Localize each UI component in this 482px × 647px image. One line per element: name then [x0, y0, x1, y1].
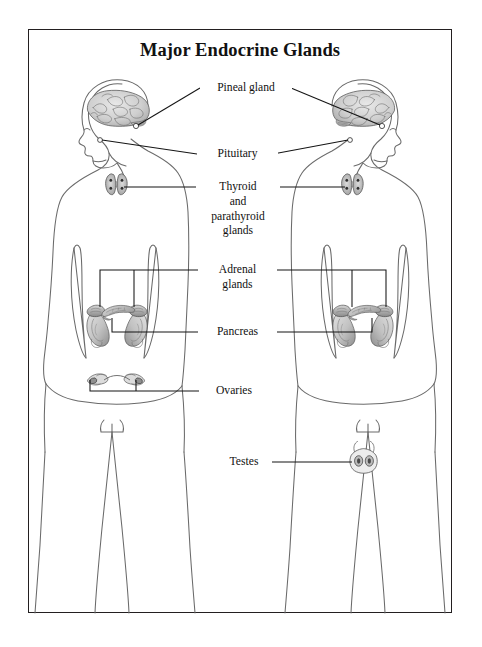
brain-right — [333, 90, 395, 126]
diagram-page: Major Endocrine Glands Pineal gland Pitu… — [0, 0, 482, 647]
leader-pancreas-right — [272, 318, 372, 332]
anatomy-illustration — [0, 0, 482, 647]
pituitary-dot-right — [348, 138, 353, 143]
label-pancreas: Pancreas — [198, 325, 277, 340]
label-adrenal-glands: Adrenal glands — [198, 263, 277, 293]
male-body-outline — [285, 84, 445, 613]
brain-left — [87, 90, 149, 126]
testes — [350, 441, 377, 473]
leader-adrenal-left — [100, 270, 198, 307]
ovary-right — [124, 374, 144, 385]
thyroid-right — [342, 174, 364, 195]
label-ovaries: Ovaries — [200, 384, 268, 399]
label-pineal-gland: Pineal gland — [200, 81, 292, 96]
page-title: Major Endocrine Glands — [28, 40, 452, 61]
leader-pituitary-right — [273, 140, 348, 154]
label-testes: Testes — [216, 455, 272, 470]
leader-adrenal-right — [272, 270, 386, 307]
pituitary-dot-left — [98, 138, 103, 143]
label-pituitary: Pituitary — [197, 147, 278, 162]
pineal-dot-left — [133, 123, 138, 128]
female-body-outline — [35, 84, 195, 613]
pineal-dot-right — [379, 123, 384, 128]
thyroid-left — [106, 174, 128, 195]
label-thyroid-parathyroid: Thyroid and parathyroid glands — [196, 180, 280, 239]
